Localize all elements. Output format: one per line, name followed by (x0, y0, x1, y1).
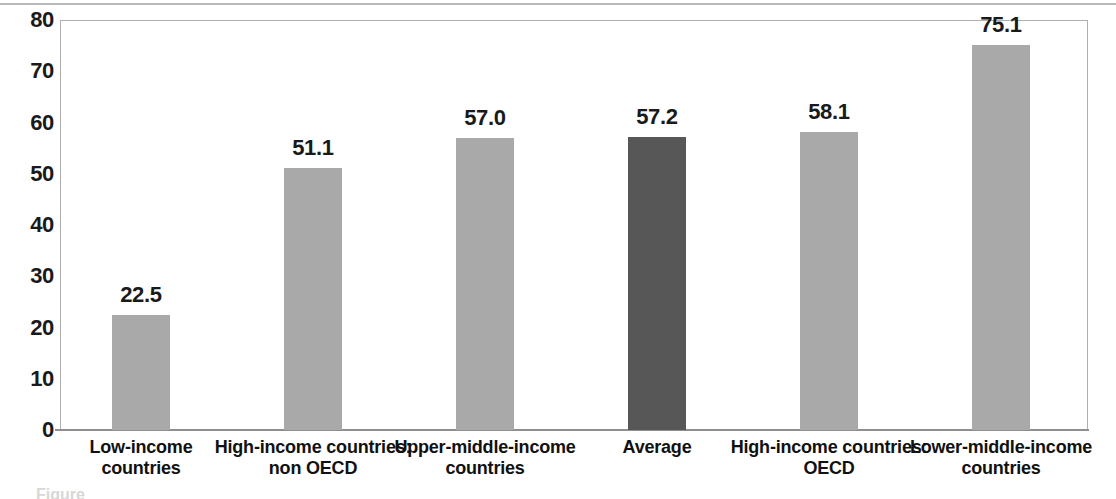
bar-group[interactable]: 51.1 (284, 0, 342, 430)
bar-value-label: 22.5 (78, 284, 204, 306)
bar[interactable] (800, 132, 858, 430)
x-axis-category-label: Lower-middle-incomecountries (881, 437, 1116, 479)
y-axis-tick-label: 30 (8, 265, 54, 287)
bar-group[interactable]: 22.5 (112, 0, 170, 430)
bar-chart: 80706050403020100 22.551.157.057.258.175… (0, 0, 1116, 499)
bar-group[interactable]: 58.1 (800, 0, 858, 430)
x-axis-category-label-line: Lower-middle-income (881, 437, 1116, 458)
bar[interactable] (628, 137, 686, 430)
bar-group[interactable]: 57.0 (456, 0, 514, 430)
bar-value-label: 58.1 (766, 101, 892, 123)
x-axis-category-label-line: countries (881, 458, 1116, 479)
caption-bleed-text: Figure (36, 486, 456, 499)
bar[interactable] (456, 138, 514, 430)
plot-area (60, 20, 1088, 430)
bar-value-label: 75.1 (938, 14, 1064, 36)
y-axis-tick-label: 70 (8, 60, 54, 82)
y-axis-tick-label: 10 (8, 368, 54, 390)
x-axis-category-label-line: countries (365, 458, 605, 479)
bar[interactable] (284, 168, 342, 430)
bar-value-label: 51.1 (250, 137, 376, 159)
bar-group[interactable]: 57.2 (628, 0, 686, 430)
y-axis-tick-label: 60 (8, 112, 54, 134)
y-axis-tick-label: 20 (8, 317, 54, 339)
bar[interactable] (972, 45, 1030, 430)
bar-value-label: 57.0 (422, 107, 548, 129)
y-axis: 80706050403020100 (0, 0, 54, 499)
x-axis-line (55, 429, 1089, 431)
bar-group[interactable]: 75.1 (972, 0, 1030, 430)
y-axis-tick-label: 80 (8, 9, 54, 31)
bar[interactable] (112, 315, 170, 430)
y-axis-tick-label: 50 (8, 163, 54, 185)
y-axis-tick-label: 40 (8, 214, 54, 236)
bar-value-label: 57.2 (594, 106, 720, 128)
